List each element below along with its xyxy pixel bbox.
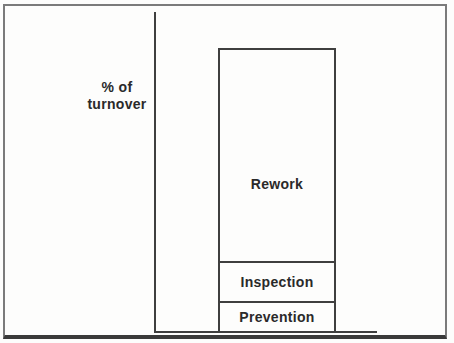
bar-segment-prevention-label: Prevention [239,309,314,325]
bar-segment-rework-label: Rework [251,176,303,192]
cost-of-quality-figure: % of turnover Rework Inspection Preventi… [0,0,454,343]
y-axis-label-line2: turnover [57,96,177,113]
y-axis-label: % of turnover [57,79,177,113]
y-axis-line [154,12,156,333]
bar-segment-rework: Rework [220,50,334,261]
bar-segment-prevention: Prevention [220,301,334,331]
bar-segment-inspection: Inspection [220,261,334,301]
stacked-bar: Rework Inspection Prevention [218,48,336,333]
y-axis-label-line1: % of [57,79,177,96]
bar-segment-inspection-label: Inspection [240,274,313,290]
